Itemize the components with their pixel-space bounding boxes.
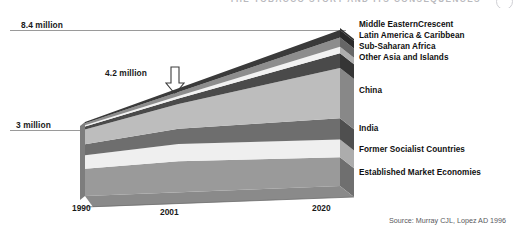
legend-item-3: Other Asia and Islands — [359, 53, 449, 62]
figure-page: THE TOBACCO STORY AND ITS CONSEQUENCES 8… — [0, 0, 521, 234]
legend-item-label: Former Socialist Countries — [359, 145, 465, 154]
legend-item-label: Sub-Saharan Africa — [359, 42, 436, 51]
legend-item-6: Former Socialist Countries — [359, 145, 465, 154]
x-axis-label-1: 2001 — [160, 207, 179, 217]
legend-item-7: Established Market Economies — [359, 168, 481, 177]
legend-item-label: China — [359, 86, 382, 95]
legend-item-label: India — [359, 124, 378, 133]
source-note: Source: Murray CJL, Lopez AD 1996 — [389, 216, 506, 225]
legend-item-4: China — [359, 86, 382, 95]
legend-item-label: Latin America & Caribbean — [359, 31, 465, 40]
legend-item-5: India — [359, 124, 378, 133]
legend-item-label: Middle EasternCrescent — [359, 20, 453, 29]
chart-left-face — [80, 122, 85, 200]
x-axis-label-0: 1990 — [72, 203, 91, 213]
legend-item-label: Other Asia and Islands — [359, 53, 449, 62]
legend-item-label: Established Market Economies — [359, 168, 481, 177]
legend-item-0: Middle EasternCrescent — [359, 20, 453, 29]
legend-item-2: Sub-Saharan Africa — [359, 42, 436, 51]
legend-item-1: Latin America & Caribbean — [359, 31, 465, 40]
x-axis-label-2: 2020 — [312, 203, 331, 213]
